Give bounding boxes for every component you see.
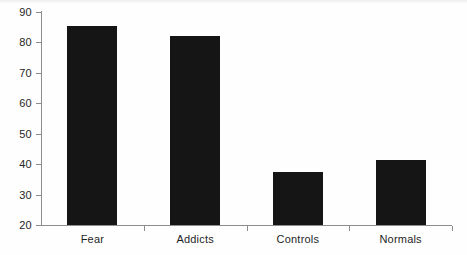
y-tick-mark	[36, 134, 41, 135]
y-tick-label: 60	[8, 98, 32, 108]
y-tick-label: 40	[8, 159, 32, 169]
bar-controls	[273, 172, 323, 225]
category-label-normals: Normals	[349, 233, 452, 245]
y-tick-mark	[36, 225, 41, 226]
y-tick-mark	[36, 164, 41, 165]
y-tick-label: 80	[8, 37, 32, 47]
y-tick-label: 70	[8, 68, 32, 78]
bar-addicts	[170, 36, 220, 225]
x-tick-mark	[144, 226, 145, 231]
y-tick-label: 90	[8, 7, 32, 17]
x-tick-mark	[349, 226, 350, 231]
y-tick-mark	[36, 103, 41, 104]
y-tick-label: 20	[8, 220, 32, 230]
category-label-addicts: Addicts	[144, 233, 247, 245]
bar-normals	[376, 160, 426, 225]
scan-edge-artifact	[0, 0, 467, 4]
y-axis-line	[41, 11, 42, 226]
y-tick-mark	[36, 73, 41, 74]
x-tick-mark	[452, 226, 453, 231]
bar-fear	[67, 26, 117, 225]
y-tick-mark	[36, 42, 41, 43]
category-label-fear: Fear	[41, 233, 144, 245]
x-tick-mark	[247, 226, 248, 231]
category-label-controls: Controls	[247, 233, 350, 245]
y-tick-mark	[36, 12, 41, 13]
y-tick-label: 30	[8, 190, 32, 200]
y-tick-mark	[36, 195, 41, 196]
y-tick-label: 50	[8, 129, 32, 139]
bar-chart: 2030405060708090 FearAddictsControlsNorm…	[0, 0, 467, 255]
